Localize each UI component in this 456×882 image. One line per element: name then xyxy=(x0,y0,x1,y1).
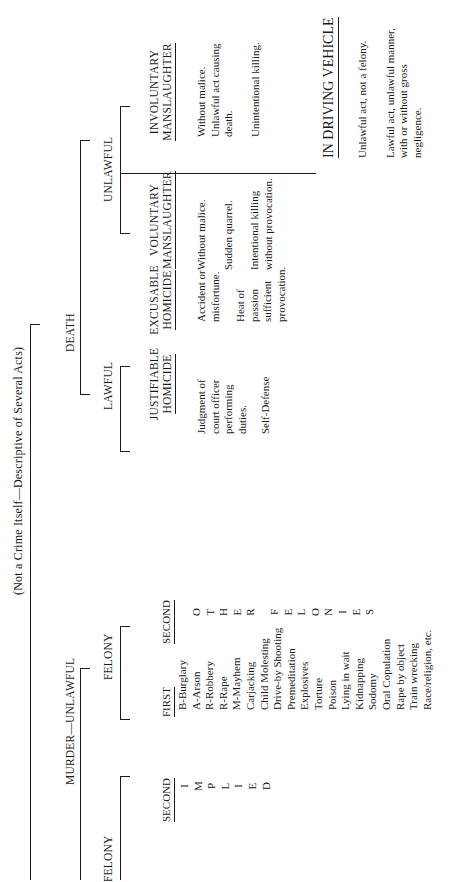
voluntary-items: Without malice. Sudden quarrel. Intentio… xyxy=(195,178,275,270)
unlawful-bracket-line xyxy=(120,106,121,234)
letter: D xyxy=(260,780,274,792)
first-degree-heading: FIRST xyxy=(160,687,175,717)
item: Self-Defense xyxy=(259,377,273,434)
item xyxy=(235,178,248,270)
first-degree-felony-item: Lying in wait xyxy=(339,628,353,710)
unlawful-bracket-tick-left xyxy=(120,233,130,234)
letter: E xyxy=(231,606,245,618)
first-degree-felony-item: Race/religion, etc. xyxy=(421,628,435,710)
death-bracket-line xyxy=(80,140,81,395)
item: Intentional killing xyxy=(248,178,262,270)
felony-right-second-heading: SECOND xyxy=(160,600,175,644)
spacer xyxy=(258,606,268,618)
first-degree-felony-item: R-Robbery xyxy=(203,628,217,710)
voluntary-manslaughter-heading: VOLUNTARY MANSLAUGHTER xyxy=(148,160,176,280)
letter: R xyxy=(244,606,258,618)
top-bracket-tick-right xyxy=(30,324,40,325)
item xyxy=(222,267,234,322)
item: Heat of xyxy=(234,267,248,322)
first-degree-felony-item: Train wrecking xyxy=(407,628,421,710)
lawful-bracket-tick-left xyxy=(120,451,130,452)
item: Lawful act, unlawful manner, xyxy=(384,28,398,158)
felony-right-bracket-tick-left xyxy=(120,719,130,720)
diagram-title: (Not a Crime Itself—Descriptive of Sever… xyxy=(12,347,26,595)
first-degree-felony-item: Kidnapping xyxy=(353,628,367,710)
felony-right-bracket-line xyxy=(120,626,121,720)
letter: O xyxy=(190,606,204,618)
letter: L xyxy=(219,780,233,792)
felony-left-bracket-line xyxy=(120,776,121,880)
letter: O xyxy=(309,606,323,618)
item: performing xyxy=(222,377,236,434)
item: without provocation. xyxy=(262,178,276,270)
felony-right-bracket-tick-right xyxy=(120,626,130,627)
item: duties. xyxy=(236,377,250,434)
first-degree-felony-item: R-Rape xyxy=(217,628,231,710)
first-degree-felony-item: Premeditation xyxy=(285,628,299,710)
item xyxy=(370,28,384,158)
letter: T xyxy=(204,606,218,618)
item: misfortune. xyxy=(209,267,223,322)
letter: E xyxy=(282,606,296,618)
item: death. xyxy=(222,42,236,137)
first-degree-felony-item: Sodomy xyxy=(366,628,380,710)
first-degree-felony-item: Explosives xyxy=(298,628,312,710)
letter: P xyxy=(205,780,219,792)
death-bracket-tick-right xyxy=(80,140,90,141)
first-degree-felony-item: Poison xyxy=(326,628,340,710)
item: Judgment of xyxy=(195,377,209,434)
implied-letters: I M P L I E D xyxy=(178,780,273,792)
unlawful-bracket-tick-right xyxy=(120,106,130,107)
first-degree-felony-item: Oral Copulation xyxy=(380,628,394,710)
heading-line: HOMICIDE xyxy=(161,354,176,413)
justifiable-items: Judgment of court officer performing dut… xyxy=(195,377,273,434)
item: Unlawful act causing xyxy=(209,42,223,137)
letter: I xyxy=(178,780,192,792)
letter: E xyxy=(350,606,364,618)
vehicle-items: Unlawful act, not a felony. Lawful act, … xyxy=(356,28,424,158)
involuntary-items: Without malice. Unlawful act causing dea… xyxy=(195,42,262,137)
item: Sudden quarrel. xyxy=(222,178,236,270)
heading-line: MANSLAUGHTER xyxy=(161,171,176,269)
item: provocation. xyxy=(275,267,289,322)
first-degree-felony-item: Child Molesting xyxy=(258,628,272,710)
first-degree-felony-item: Carjacking xyxy=(244,628,258,710)
lawful-bracket-tick-right xyxy=(120,366,130,367)
driving-vehicle-heading: IN DRIVING VEHICLE xyxy=(321,18,339,159)
felony-right-label: FELONY xyxy=(102,633,115,680)
heading-line: MANSLAUGHTER xyxy=(161,43,176,141)
letter: E xyxy=(246,780,260,792)
letter: I xyxy=(232,780,246,792)
item: Unlawful act, not a felony. xyxy=(356,28,370,158)
first-degree-felony-item: Rape by object xyxy=(394,628,408,710)
first-degree-felony-list: B-BurglaryA-ArsonR-RobberyR-RapeM-Mayhem… xyxy=(176,628,434,710)
item: passion xyxy=(248,267,262,322)
first-degree-felony-item: B-Burglary xyxy=(176,628,190,710)
letter: M xyxy=(192,780,206,792)
item xyxy=(249,377,259,434)
murder-bracket-tick-right xyxy=(80,668,90,669)
felony-left-bracket-tick xyxy=(120,776,130,777)
top-bracket-line xyxy=(30,324,31,880)
first-degree-felony-item: M-Mayhem xyxy=(230,628,244,710)
lawful-label: LAWFUL xyxy=(102,362,115,410)
felony-left-label: FELONY xyxy=(102,835,115,882)
death-bracket-tick-left xyxy=(80,394,90,395)
letter: N xyxy=(322,606,336,618)
first-degree-felony-item: A-Arson xyxy=(190,628,204,710)
item xyxy=(209,178,222,270)
death-label: DEATH xyxy=(64,313,77,352)
letter: S xyxy=(363,606,377,618)
felony-left-second-heading: SECOND xyxy=(160,778,175,822)
item: Without malice. xyxy=(195,42,209,137)
first-degree-felony-item: Drive-by Shooting xyxy=(271,628,285,710)
murder-unlawful-label: MURDER—UNLAWFUL xyxy=(64,658,77,785)
murder-bracket-line xyxy=(80,668,81,880)
item: Unintentional killing. xyxy=(249,42,263,137)
lawful-bracket-line xyxy=(120,366,121,452)
letter: F xyxy=(268,606,282,618)
heading-line: INVOLUNTARY xyxy=(148,32,161,152)
first-degree-felony-item: Torture xyxy=(312,628,326,710)
heading-line: VOLUNTARY xyxy=(148,160,161,280)
involuntary-manslaughter-heading: INVOLUNTARY MANSLAUGHTER xyxy=(148,32,176,152)
